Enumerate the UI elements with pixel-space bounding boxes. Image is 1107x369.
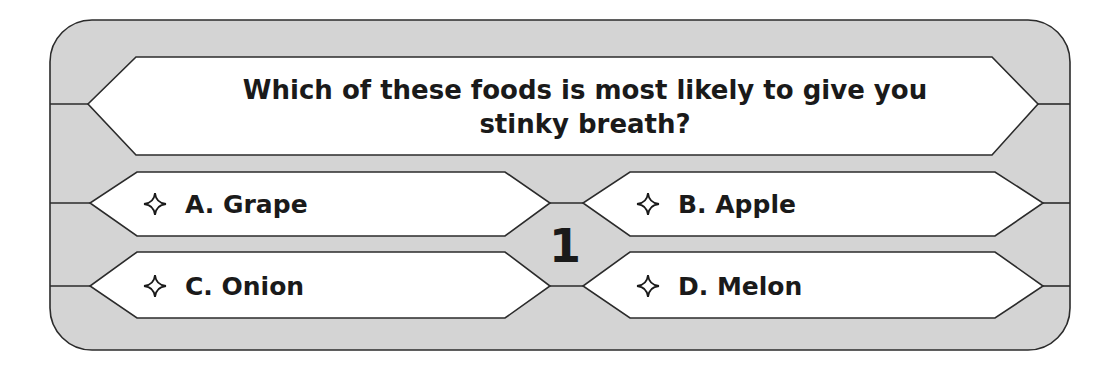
answer-option-a[interactable]: A. Grape	[143, 174, 503, 234]
question-line-1: Which of these foods is most likely to g…	[203, 73, 927, 107]
four-point-star-outline-icon	[143, 192, 167, 216]
answer-option-b[interactable]: B. Apple	[636, 174, 996, 234]
answer-a-label: A. Grape	[185, 190, 308, 219]
four-point-star-outline-icon	[143, 274, 167, 298]
question-number: 1	[540, 218, 590, 274]
answer-b-label: B. Apple	[678, 190, 796, 219]
answer-c-label: C. Onion	[185, 272, 304, 301]
question-text: Which of these foods is most likely to g…	[140, 62, 990, 152]
question-line-2: stinky breath?	[203, 107, 927, 141]
answer-d-label: D. Melon	[678, 272, 802, 301]
answer-option-c[interactable]: C. Onion	[143, 256, 503, 316]
four-point-star-outline-icon	[636, 192, 660, 216]
answer-option-d[interactable]: D. Melon	[636, 256, 996, 316]
four-point-star-outline-icon	[636, 274, 660, 298]
